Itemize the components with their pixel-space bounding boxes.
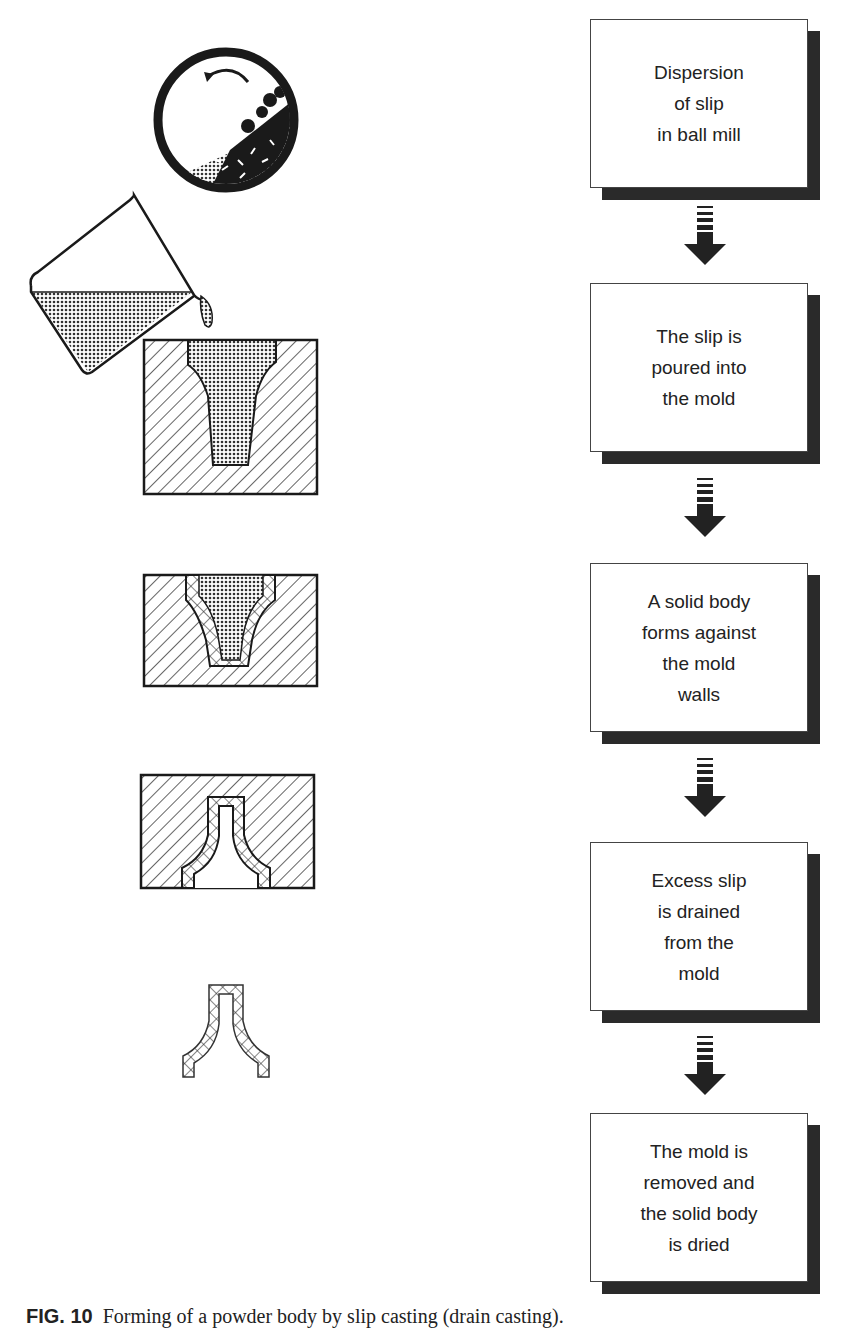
step-box-dispersion: Dispersion of slip in ball mill: [590, 19, 808, 188]
mold-drained-icon: [141, 775, 314, 888]
caption-text: Forming of a powder body by slip casting…: [103, 1305, 564, 1327]
figure-caption: FIG. 10 Forming of a powder body by slip…: [26, 1305, 564, 1328]
dried-body-icon: [183, 985, 269, 1077]
step-box-draining: Excess slip is drained from the mold: [590, 842, 808, 1011]
step-box-drying: The mold is removed and the solid body i…: [590, 1113, 808, 1282]
mold-filled-icon: [144, 340, 317, 494]
step-text: Excess slip is drained from the mold: [651, 865, 746, 989]
step-text: The mold is removed and the solid body i…: [640, 1136, 757, 1260]
down-arrow-icon: [683, 1036, 727, 1096]
step-text: Dispersion of slip in ball mill: [654, 57, 744, 150]
step-box-wall-formation: A solid body forms against the mold wall…: [590, 563, 808, 732]
caption-label: FIG. 10: [26, 1305, 93, 1327]
down-arrow-icon: [683, 206, 727, 266]
step-text: A solid body forms against the mold wall…: [642, 586, 756, 710]
down-arrow-icon: [683, 758, 727, 818]
ball-mill-icon: [158, 52, 300, 200]
step-text: The slip is poured into the mold: [651, 321, 746, 414]
mold-wall-formation-icon: [144, 575, 317, 686]
down-arrow-icon: [683, 478, 727, 538]
step-box-pouring: The slip is poured into the mold: [590, 283, 808, 452]
